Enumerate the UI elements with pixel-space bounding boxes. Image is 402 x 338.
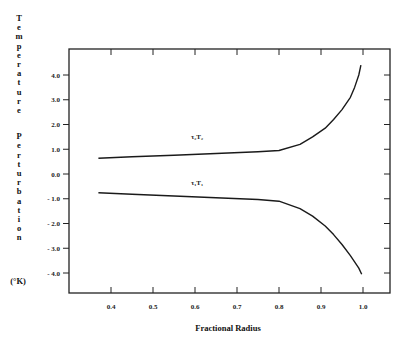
y-axis-title-letter: n <box>17 232 22 242</box>
x-tick-label: 0.9 <box>317 303 326 311</box>
x-tick-label: 1.0 <box>359 303 368 311</box>
chart: 0.40.50.60.70.80.91.0 4.03.02.01.00.0- 1… <box>0 0 402 338</box>
x-tick-label: 0.6 <box>191 303 200 311</box>
y-tick-label: 3.0 <box>51 96 60 104</box>
x-tick-label: 0.5 <box>149 303 158 311</box>
x-axis-ticks: 0.40.50.60.70.80.91.0 <box>107 49 368 311</box>
x-tick-label: 0.4 <box>107 303 116 311</box>
y-tick-label: - 1.0 <box>47 195 60 203</box>
series-lines: τ₂T₂τ₁T₁ <box>98 65 361 274</box>
y-tick-label: 1.0 <box>51 146 60 154</box>
x-tick-label: 0.8 <box>275 303 284 311</box>
x-axis-title: Fractional Radius <box>195 323 261 333</box>
y-axis-ticks: 4.03.02.01.00.0- 1.0- 2.0- 3.0- 4.0 <box>47 72 390 278</box>
plot-border <box>69 49 390 293</box>
y-tick-label: - 2.0 <box>47 220 60 228</box>
y-tick-label: - 3.0 <box>47 245 60 253</box>
y-tick-label: - 4.0 <box>47 270 60 278</box>
series-line-2 <box>98 193 361 274</box>
y-axis-units: (°K) <box>10 276 26 286</box>
x-tick-label: 0.7 <box>233 303 242 311</box>
series-line-1 <box>98 65 361 158</box>
y-axis-title-letter: e <box>17 105 21 115</box>
y-tick-label: 4.0 <box>51 72 60 80</box>
y-tick-label: 2.0 <box>51 121 60 129</box>
series-label-2: τ₁T₁ <box>191 179 203 187</box>
series-label-1: τ₂T₂ <box>191 133 203 141</box>
y-tick-label: 0.0 <box>51 171 60 179</box>
plot-frame <box>69 49 390 293</box>
y-axis-title: TemperaturePerturbation <box>15 13 22 242</box>
